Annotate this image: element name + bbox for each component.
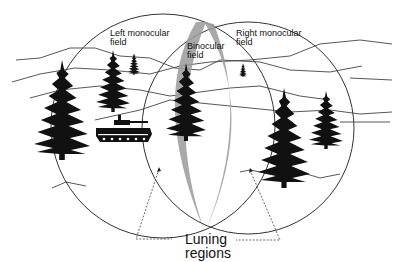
binocular-label: Binocular field xyxy=(187,42,225,60)
luning-label-line1: Luning xyxy=(185,232,231,246)
horizon-lines xyxy=(12,40,392,188)
binocular-label-line2: field xyxy=(187,51,225,60)
tree-icon xyxy=(309,91,343,149)
tree-icon xyxy=(258,88,310,188)
tank-icon xyxy=(96,115,152,142)
right-monocular-label: Right monocular field xyxy=(236,29,302,47)
visual-field-diagram xyxy=(0,0,396,262)
luning-pointers xyxy=(136,169,280,240)
luning-regions-label: Luning regions xyxy=(185,232,231,260)
right-monocular-label-line2: field xyxy=(236,38,302,47)
tree-icon xyxy=(166,63,206,141)
left-monocular-label: Left monocular field xyxy=(110,29,170,47)
tree-icon xyxy=(34,60,90,160)
tree-icon xyxy=(239,63,247,77)
left-monocular-label-line2: field xyxy=(110,38,170,47)
luning-label-line2: regions xyxy=(185,246,231,260)
tree-icon xyxy=(96,50,130,112)
